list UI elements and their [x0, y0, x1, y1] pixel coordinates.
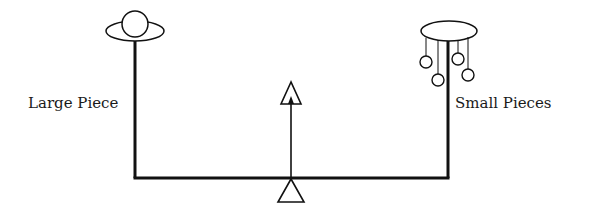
label-small-pieces: Small Pieces [455, 94, 552, 112]
balance-indicator-arrow-icon [281, 82, 301, 178]
fulcrum-triangle-icon [278, 179, 304, 202]
label-large-piece: Large Piece [28, 94, 118, 112]
left-pan-large-piece [106, 11, 164, 41]
balance-diagram: Large Piece Small Pieces [0, 0, 591, 213]
